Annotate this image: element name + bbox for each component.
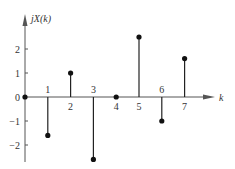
x-axis-label: k [219, 92, 224, 103]
x-tick-label: 4 [114, 101, 119, 112]
x-axis-arrow-icon [203, 95, 215, 100]
stem-marker [45, 133, 50, 138]
stem-marker [91, 157, 96, 162]
labels: 210−1−21234567jX(k)k [9, 13, 224, 151]
x-tick-label: 2 [68, 101, 73, 112]
stem-marker [136, 34, 141, 39]
y-tick-label: 2 [15, 44, 20, 55]
y-axis-label: jX(k) [29, 13, 52, 25]
y-tick-label: −1 [9, 116, 20, 127]
y-tick-label: 1 [15, 68, 20, 79]
y-tick-label: 0 [15, 92, 20, 103]
stem-marker [159, 118, 164, 123]
stem-marker [22, 94, 27, 99]
x-tick-label: 7 [182, 101, 187, 112]
stem-plot: 210−1−21234567jX(k)k [0, 0, 235, 169]
stems [22, 34, 187, 162]
y-tick-label: −2 [9, 140, 20, 151]
x-tick-label: 1 [45, 84, 50, 95]
x-tick-label: 6 [159, 84, 164, 95]
axes [23, 14, 216, 162]
stem-marker [182, 56, 187, 61]
y-axis-arrow-icon [23, 14, 28, 26]
x-tick-label: 3 [91, 84, 96, 95]
x-tick-label: 5 [137, 101, 142, 112]
stem-marker [114, 94, 119, 99]
stem-marker [68, 70, 73, 75]
